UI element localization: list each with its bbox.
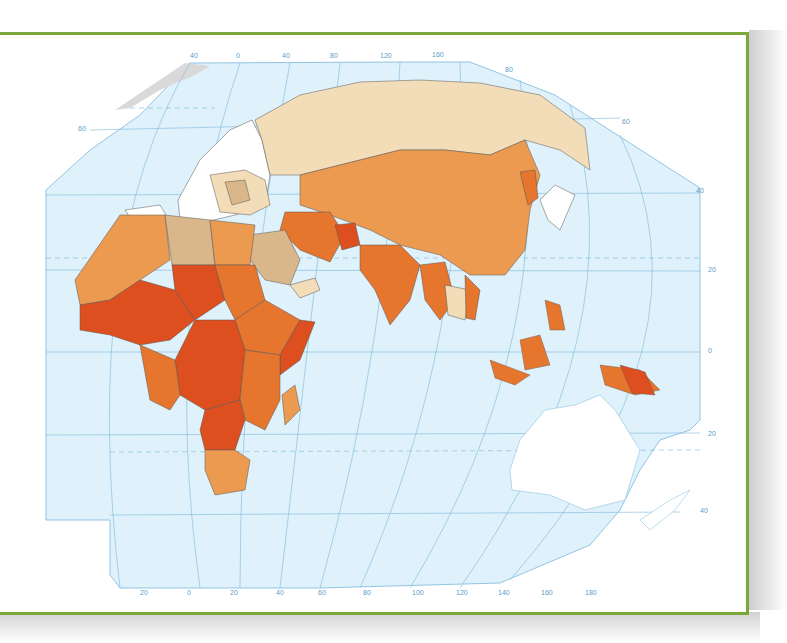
svg-text:100: 100 <box>412 589 424 596</box>
svg-text:80: 80 <box>505 66 513 73</box>
svg-text:160: 160 <box>541 589 553 596</box>
top-longitude-labels: 40 0 40 80 120 160 <box>190 51 444 59</box>
svg-text:40: 40 <box>700 507 708 514</box>
svg-text:60: 60 <box>622 118 630 125</box>
svg-text:0: 0 <box>708 347 712 354</box>
svg-text:40: 40 <box>276 589 284 596</box>
svg-text:0: 0 <box>187 589 191 596</box>
svg-text:60: 60 <box>318 589 326 596</box>
world-map: 40 0 40 80 120 160 80 60 40 20 0 20 40 6… <box>0 0 787 643</box>
svg-text:40: 40 <box>282 52 290 59</box>
new-zealand <box>640 490 690 530</box>
svg-text:140: 140 <box>498 589 510 596</box>
svg-text:180: 180 <box>585 589 597 596</box>
svg-text:120: 120 <box>456 589 468 596</box>
svg-text:20: 20 <box>708 266 716 273</box>
svg-text:60: 60 <box>78 125 86 132</box>
svg-text:40: 40 <box>696 187 704 194</box>
svg-text:20: 20 <box>140 589 148 596</box>
svg-text:120: 120 <box>380 52 392 59</box>
svg-text:20: 20 <box>708 430 716 437</box>
svg-text:80: 80 <box>363 589 371 596</box>
svg-text:80: 80 <box>330 52 338 59</box>
bottom-longitude-labels: 20 0 20 40 60 80 100 120 140 160 180 <box>140 589 597 596</box>
left-latitude-labels: 60 <box>78 125 86 132</box>
svg-text:20: 20 <box>230 589 238 596</box>
svg-text:0: 0 <box>236 52 240 59</box>
svg-text:160: 160 <box>432 51 444 58</box>
svg-text:40: 40 <box>190 52 198 59</box>
